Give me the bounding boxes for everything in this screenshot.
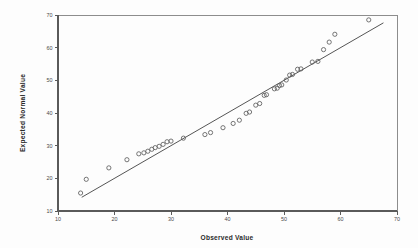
reference-line-segment — [82, 23, 384, 197]
x-tick-label: 50 — [281, 216, 287, 222]
data-point-marker — [208, 131, 212, 135]
x-axis-title: Observed Value — [201, 234, 254, 241]
data-point-marker — [237, 118, 241, 122]
data-point-marker — [231, 121, 235, 125]
data-point-marker — [327, 40, 331, 44]
data-point-marker — [157, 144, 161, 148]
x-tick-label: 60 — [338, 216, 344, 222]
data-point-marker — [321, 48, 325, 52]
data-point-marker — [125, 158, 129, 162]
reference-line — [82, 23, 384, 197]
data-point-marker — [84, 177, 88, 181]
x-tick-label: 10 — [55, 216, 61, 222]
data-point-marker — [169, 139, 173, 143]
y-axis-title: Expected Normal Value — [19, 74, 27, 152]
y-tick-label: 40 — [47, 110, 53, 116]
data-point-marker — [137, 152, 141, 156]
data-point-marker — [203, 132, 207, 136]
data-point-marker — [367, 18, 371, 22]
qq-plot-figure: 10203040506070 10203040506070 Observed V… — [0, 0, 418, 248]
data-point-marker — [107, 166, 111, 170]
data-point-marker — [79, 191, 83, 195]
y-tick-label: 50 — [47, 77, 53, 83]
y-tick-label: 20 — [47, 175, 53, 181]
data-point-marker — [275, 86, 279, 90]
y-axis-ticks: 10203040506070 — [47, 12, 59, 214]
y-tick-label: 70 — [47, 12, 53, 18]
data-points-group — [79, 18, 371, 195]
data-point-marker — [165, 140, 169, 144]
data-point-marker — [146, 149, 150, 153]
y-tick-label: 60 — [47, 45, 53, 51]
x-axis-ticks: 10203040506070 — [55, 211, 400, 222]
y-tick-label: 30 — [47, 143, 53, 149]
plot-canvas: 10203040506070 10203040506070 Observed V… — [0, 0, 418, 248]
data-point-marker — [161, 142, 165, 146]
data-point-marker — [333, 32, 337, 36]
y-tick-label: 10 — [47, 208, 53, 214]
x-tick-label: 40 — [225, 216, 231, 222]
x-tick-label: 20 — [112, 216, 118, 222]
data-point-marker — [221, 126, 225, 130]
data-point-marker — [258, 101, 262, 105]
x-tick-label: 30 — [168, 216, 174, 222]
x-tick-label: 70 — [394, 216, 400, 222]
